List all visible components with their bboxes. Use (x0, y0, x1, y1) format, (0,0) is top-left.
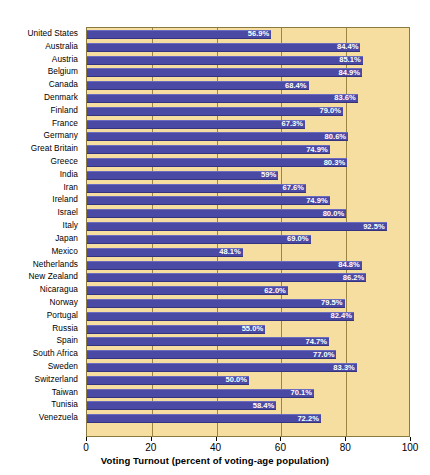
y-axis-label: Great Britain (0, 144, 78, 153)
y-axis-label: Denmark (0, 93, 78, 102)
x-axis-tick-mark (280, 437, 281, 441)
bar-value-label: 59% (87, 170, 278, 180)
y-axis-label: Switzerland (0, 375, 78, 384)
bar-value-label: 80.0% (87, 209, 346, 219)
x-axis-tick-label: 40 (196, 442, 236, 453)
bar-row: 70.1% (87, 389, 409, 398)
y-axis-label: India (0, 170, 78, 179)
x-axis-tick-mark (410, 437, 411, 441)
bar-value-label: 92.5% (87, 222, 387, 232)
plot-area: 56.9%84.4%85.1%84.9%68.4%83.6%79.0%67.3%… (86, 27, 410, 437)
bar-row: 48.1% (87, 248, 409, 257)
x-axis-title: Voting Turnout (percent of voting-age po… (0, 455, 430, 466)
y-axis-label: Japan (0, 234, 78, 243)
x-axis-tick-label: 0 (66, 442, 106, 453)
y-axis-label: Nicaragua (0, 285, 78, 294)
bar-value-label: 85.1% (87, 55, 363, 65)
y-axis-label: United States (0, 29, 78, 38)
x-axis-tick-mark (216, 437, 217, 441)
bar-row: 86.2% (87, 273, 409, 282)
bar-value-label: 79.5% (87, 298, 345, 308)
bar-row: 83.3% (87, 363, 409, 372)
bar-value-label: 84.9% (87, 68, 362, 78)
bar-value-label: 80.6% (87, 132, 348, 142)
bar-value-label: 83.6% (87, 93, 358, 103)
bar-row: 68.4% (87, 81, 409, 90)
x-axis-tick-label: 80 (325, 442, 365, 453)
bar-value-label: 67.6% (87, 183, 306, 193)
bar-value-label: 74.9% (87, 196, 330, 206)
y-axis-label: Venezuela (0, 413, 78, 422)
y-axis-label: Taiwan (0, 388, 78, 397)
y-axis-label: France (0, 119, 78, 128)
bar-row: 74.9% (87, 145, 409, 154)
y-axis-label: Canada (0, 80, 78, 89)
bar-value-label: 80.3% (87, 158, 347, 168)
bar-row: 67.6% (87, 184, 409, 193)
bar-row: 72.2% (87, 414, 409, 423)
y-axis-category-labels: United StatesAustraliaAustriaBelgiumCana… (0, 27, 82, 437)
x-axis-tick-mark (151, 437, 152, 441)
bar-row: 74.9% (87, 196, 409, 205)
bar-row: 77.0% (87, 350, 409, 359)
bar-value-label: 69.0% (87, 234, 311, 244)
x-axis-tick-label: 60 (260, 442, 300, 453)
bar-row: 79.0% (87, 107, 409, 116)
y-axis-label: Mexico (0, 247, 78, 256)
y-axis-label: Ireland (0, 195, 78, 204)
bar-row: 82.4% (87, 312, 409, 321)
x-axis-tick-label: 20 (131, 442, 171, 453)
bar-row: 84.8% (87, 261, 409, 270)
y-axis-label: Germany (0, 131, 78, 140)
bar-value-label: 67.3% (87, 119, 305, 129)
bar-row: 84.4% (87, 43, 409, 52)
bar-value-label: 48.1% (87, 247, 243, 257)
y-axis-label: Finland (0, 106, 78, 115)
bar-row: 56.9% (87, 30, 409, 39)
bar-value-label: 84.8% (87, 260, 362, 270)
y-axis-label: Belgium (0, 67, 78, 76)
bar-row: 59% (87, 171, 409, 180)
y-axis-label: Netherlands (0, 260, 78, 269)
y-axis-label: Sweden (0, 362, 78, 371)
bar-value-label: 74.7% (87, 337, 329, 347)
bar-value-label: 70.1% (87, 388, 314, 398)
bar-value-label: 83.3% (87, 363, 357, 373)
bar-value-label: 79.0% (87, 106, 343, 116)
y-axis-label: Australia (0, 42, 78, 51)
x-axis: 020406080100 (86, 437, 410, 457)
bar-value-label: 68.4% (87, 81, 309, 91)
bar-value-label: 86.2% (87, 273, 366, 283)
bar-value-label: 72.2% (87, 414, 321, 424)
y-axis-label: New Zealand (0, 272, 78, 281)
bar-value-label: 50.0% (87, 375, 249, 385)
y-axis-label: Norway (0, 298, 78, 307)
bar-row: 58.4% (87, 401, 409, 410)
y-axis-label: Portugal (0, 311, 78, 320)
bar-row: 80.3% (87, 158, 409, 167)
bar-row: 55.0% (87, 325, 409, 334)
y-axis-label: Austria (0, 55, 78, 64)
bar-value-label: 82.4% (87, 311, 354, 321)
bar-row: 84.9% (87, 68, 409, 77)
bar-row: 62.0% (87, 286, 409, 295)
y-axis-label: Italy (0, 221, 78, 230)
y-axis-label: Spain (0, 336, 78, 345)
bar-row: 83.6% (87, 94, 409, 103)
y-axis-label: South Africa (0, 349, 78, 358)
bar-row: 67.3% (87, 120, 409, 129)
bar-row: 80.6% (87, 132, 409, 141)
y-axis-label: Israel (0, 208, 78, 217)
bar-row: 79.5% (87, 299, 409, 308)
bar-value-label: 77.0% (87, 350, 336, 360)
y-axis-label: Tunisia (0, 400, 78, 409)
y-axis-label: Iran (0, 183, 78, 192)
y-axis-label: Greece (0, 157, 78, 166)
plot-inner: 56.9%84.4%85.1%84.9%68.4%83.6%79.0%67.3%… (87, 28, 409, 436)
x-axis-tick-mark (345, 437, 346, 441)
x-axis-tick-mark (86, 437, 87, 441)
bar-value-label: 55.0% (87, 324, 265, 334)
bar-row: 80.0% (87, 209, 409, 218)
bar-value-label: 62.0% (87, 286, 288, 296)
bar-row: 92.5% (87, 222, 409, 231)
